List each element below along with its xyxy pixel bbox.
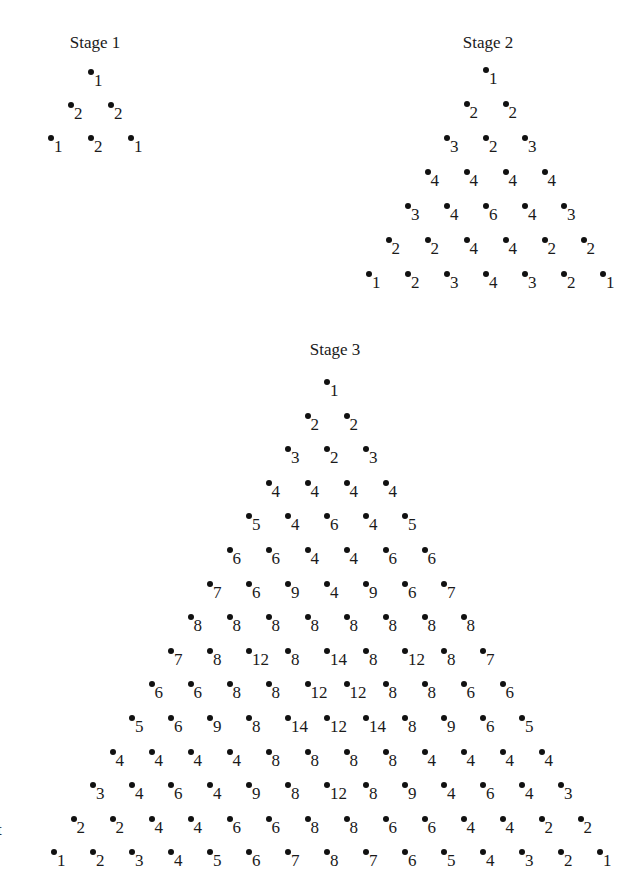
point-value: 6	[428, 819, 437, 836]
point-value: 8	[369, 785, 378, 802]
point-value: 8	[252, 718, 261, 735]
point-value: 6	[486, 718, 495, 735]
point-value: 7	[447, 584, 456, 601]
point-value: 8	[369, 651, 378, 668]
point-value: 2	[587, 240, 596, 257]
point-value: 4	[213, 785, 222, 802]
point-value: 4	[272, 483, 281, 500]
point-value: 5	[135, 718, 144, 735]
point-value: 8	[233, 684, 242, 701]
point-value: 6	[174, 785, 183, 802]
point-value: 8	[428, 617, 437, 634]
point-value: 4	[194, 752, 203, 769]
point-value: 9	[291, 584, 300, 601]
point-value: 8	[389, 752, 398, 769]
point-value: 5	[252, 516, 261, 533]
point-value: 3	[528, 274, 537, 291]
point-value: 2	[489, 138, 498, 155]
point-value: 9	[369, 584, 378, 601]
point-value: 6	[408, 584, 417, 601]
point-value: 12	[408, 651, 425, 668]
point-value: 4	[470, 172, 479, 189]
point-value: 2	[411, 274, 420, 291]
point-value: 4	[350, 550, 359, 567]
point-value: 8	[350, 617, 359, 634]
point-value: 3	[450, 274, 459, 291]
point-value: 4	[525, 785, 534, 802]
point-value: 4	[389, 483, 398, 500]
point-value: 3	[564, 785, 573, 802]
point-value: 6	[194, 684, 203, 701]
stage-1-title: Stage 1	[70, 33, 121, 53]
point-value: 6	[389, 819, 398, 836]
point-value: 4	[330, 584, 339, 601]
point-value: 4	[447, 785, 456, 802]
point-value: 8	[311, 819, 320, 836]
point-value: 2	[564, 852, 573, 869]
point-value: 3	[525, 852, 534, 869]
point-value: 4	[486, 852, 495, 869]
point-value: 6	[467, 684, 476, 701]
point-value: 4	[194, 819, 203, 836]
point-value: 9	[408, 785, 417, 802]
point-value: 4	[545, 752, 554, 769]
point-value: 5	[408, 516, 417, 533]
point-value: 6	[233, 819, 242, 836]
point-value: 4	[311, 483, 320, 500]
point-value: 4	[506, 752, 515, 769]
point-value: 4	[174, 852, 183, 869]
point-value: 8	[272, 684, 281, 701]
point-value: 12	[311, 684, 328, 701]
point-value: 8	[389, 617, 398, 634]
point-value: 3	[291, 449, 300, 466]
point-value: 9	[252, 785, 261, 802]
point-value: 2	[584, 819, 593, 836]
point-value: 6	[330, 516, 339, 533]
point-value: 12	[350, 684, 367, 701]
point-value: 2	[509, 104, 518, 121]
point-value: 4	[431, 172, 440, 189]
point-value: 3	[411, 206, 420, 223]
stray-margin-mark: t	[0, 820, 2, 840]
point-value: 8	[428, 684, 437, 701]
point-value: 8	[291, 785, 300, 802]
point-value: 6	[428, 550, 437, 567]
stage-3-title: Stage 3	[310, 340, 361, 360]
point-value: 1	[57, 852, 66, 869]
point-value: 2	[94, 138, 103, 155]
point-value: 2	[114, 105, 123, 122]
point-value: 4	[509, 172, 518, 189]
point-value: 4	[528, 206, 537, 223]
point-value: 8	[291, 651, 300, 668]
point-value: 3	[567, 206, 576, 223]
point-value: 14	[369, 718, 386, 735]
point-value: 8	[389, 684, 398, 701]
point-value: 2	[392, 240, 401, 257]
point-value: 12	[252, 651, 269, 668]
point-value: 2	[311, 416, 320, 433]
point-value: 3	[450, 138, 459, 155]
point-value: 8	[447, 651, 456, 668]
point-value: 4	[548, 172, 557, 189]
point-value: 6	[389, 550, 398, 567]
point-value: 3	[528, 138, 537, 155]
point-value: 4	[506, 819, 515, 836]
point-value: 7	[213, 584, 222, 601]
point-value: 1	[94, 72, 103, 89]
point-value: 5	[447, 852, 456, 869]
point-value: 4	[135, 785, 144, 802]
point-value: 6	[272, 819, 281, 836]
point-value: 4	[350, 483, 359, 500]
point-value: 8	[272, 617, 281, 634]
point-value: 3	[369, 449, 378, 466]
point-value: 1	[54, 138, 63, 155]
point-value: 2	[74, 105, 83, 122]
point-value: 9	[213, 718, 222, 735]
point-value: 6	[233, 550, 242, 567]
point-value: 8	[233, 617, 242, 634]
point-value: 2	[116, 819, 125, 836]
point-value: 8	[408, 718, 417, 735]
point-value: 2	[567, 274, 576, 291]
point-value: 4	[489, 274, 498, 291]
point-value: 7	[369, 852, 378, 869]
